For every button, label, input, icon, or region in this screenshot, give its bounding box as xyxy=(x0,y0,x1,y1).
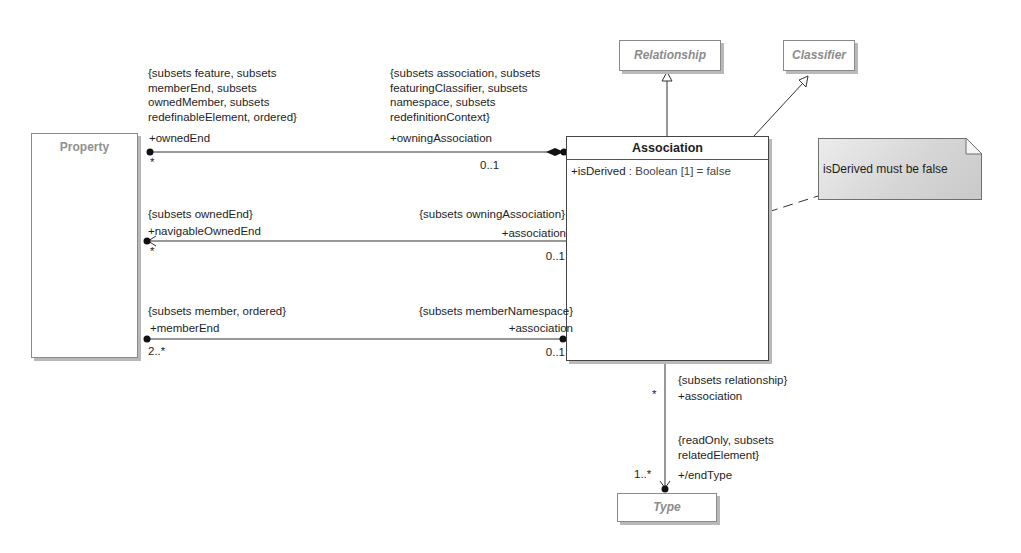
navigable-owned-end-constraint: {subsets ownedEnd} xyxy=(148,207,253,222)
owning-association-constraint: {subsets association, subsets featuringC… xyxy=(390,66,540,124)
member-end-role: +memberEnd xyxy=(150,321,219,336)
owned-end-role: +ownedEnd xyxy=(149,131,210,146)
isderived-attribute[interactable]: +isDerived : Boolean [1] = false xyxy=(571,165,731,177)
navigable-association-multiplicity: 0..1 xyxy=(546,249,565,264)
relationship-class-name: Relationship xyxy=(620,48,720,62)
navigable-owned-end-multiplicity: * xyxy=(150,244,154,259)
type-association-role: +association xyxy=(678,389,742,404)
owned-end-constraint: {subsets feature, subsets memberEnd, sub… xyxy=(148,66,297,124)
member-association-role: +association xyxy=(509,321,573,336)
type-association-multiplicity: * xyxy=(652,387,656,402)
end-type-constraint: {readOnly, subsets relatedElement} xyxy=(678,433,774,462)
end-type-multiplicity: 1..* xyxy=(634,467,651,482)
owning-association-role: +owningAssociation xyxy=(390,131,492,146)
member-association-multiplicity: 0..1 xyxy=(546,345,565,360)
navigable-association-constraint: {subsets owningAssociation} xyxy=(419,207,565,222)
member-end-constraint: {subsets member, ordered} xyxy=(148,304,286,319)
navigable-owned-end-role: +navigableOwnedEnd xyxy=(148,224,261,239)
property-class-name: Property xyxy=(32,140,137,154)
classifier-class[interactable]: Classifier xyxy=(783,40,855,71)
navigable-association-role: +association xyxy=(502,226,566,241)
owned-end-multiplicity: * xyxy=(150,155,154,170)
constraint-note[interactable]: isDerived must be false xyxy=(818,138,982,200)
relationship-constraint: {subsets relationship} xyxy=(678,373,787,388)
classifier-class-name: Classifier xyxy=(784,48,854,62)
end-type-role: +/endType xyxy=(678,468,732,483)
note-text: isDerived must be false xyxy=(823,162,948,176)
relationship-class[interactable]: Relationship xyxy=(619,40,721,71)
type-class[interactable]: Type xyxy=(617,493,717,522)
member-end-multiplicity: 2..* xyxy=(148,344,165,359)
association-class[interactable]: Association +isDerived : Boolean [1] = f… xyxy=(566,136,769,361)
owning-association-multiplicity: 0..1 xyxy=(480,158,499,173)
attribute-type: : Boolean [1] = false xyxy=(626,165,731,177)
property-class[interactable]: Property xyxy=(31,133,138,358)
type-class-name: Type xyxy=(618,500,716,514)
member-namespace-constraint: {subsets memberNamespace} xyxy=(419,304,573,319)
attribute-name: +isDerived xyxy=(571,165,626,177)
association-class-name: Association xyxy=(567,137,768,160)
